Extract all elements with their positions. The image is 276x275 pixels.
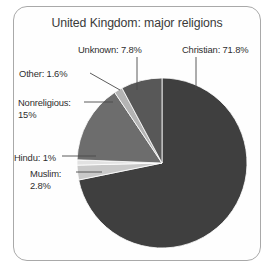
pie-slices-group	[77, 78, 247, 248]
pie-chart-figure: United Kingdom: major religions Christia…	[0, 0, 276, 275]
pie-label-unknown: Unknown: 7.8%	[78, 44, 142, 56]
pie-label-nonreligious-name: Nonreligious:	[18, 97, 71, 108]
pie-label-muslim: Muslim: 2.8%	[30, 168, 82, 191]
pie-label-nonreligious: Nonreligious: 15%	[18, 97, 88, 120]
leader-line-other	[90, 73, 120, 90]
pie-label-other: Other: 1.6%	[19, 68, 67, 80]
pie-label-muslim-value: 2.8%	[30, 180, 51, 191]
pie-label-nonreligious-value: 15%	[18, 109, 36, 120]
pie-chart-canvas	[0, 0, 276, 275]
pie-label-christian: Christian: 71.8%	[182, 44, 248, 56]
pie-label-hindu: Hindu: 1%	[14, 152, 56, 164]
pie-label-muslim-name: Muslim:	[30, 168, 61, 179]
